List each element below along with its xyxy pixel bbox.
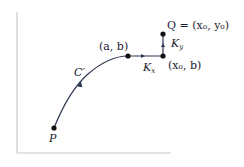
label-ky-sub: y <box>178 43 184 51</box>
label-kx: Kx <box>142 61 155 75</box>
point-q <box>160 31 165 36</box>
label-ky: Ky <box>170 37 184 51</box>
label-q: Q = (x₀, y₀) <box>167 19 229 32</box>
arrow-kx-icon <box>141 54 145 58</box>
arrow-ky-icon <box>161 43 165 47</box>
point-a-b <box>125 53 130 58</box>
curve-c-prime <box>54 56 128 128</box>
point-x0-b <box>160 53 165 58</box>
label-kx-sub: x <box>151 67 155 75</box>
label-x0-b: (x₀, b) <box>168 59 201 72</box>
label-a-b: (a, b) <box>99 40 128 53</box>
label-p: P <box>48 132 57 145</box>
point-p <box>51 125 56 130</box>
path-diagram: P (a, b) (x₀, b) Q = (x₀, y₀) C′ Kx Ky <box>0 0 244 167</box>
label-c-prime: C′ <box>74 66 85 79</box>
